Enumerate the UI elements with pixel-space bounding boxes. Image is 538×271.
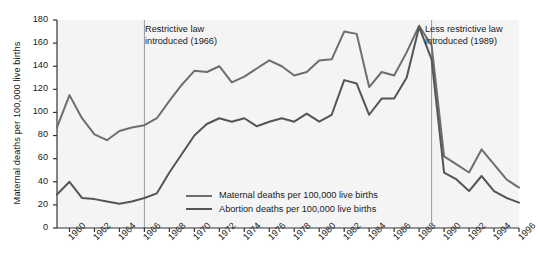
legend-item-abortion: Abortion deaths per 100,000 live births [186, 203, 378, 217]
restrictive-law-annotation: Restrictive lawintroduced (1966) [145, 24, 217, 47]
series-line-abortion-deaths [57, 27, 519, 204]
legend-swatch-abortion-icon [186, 208, 212, 210]
less-restrictive-law-annotation-line2: introduced (1989) [425, 36, 497, 46]
restrictive-law-annotation-line1: Restrictive law [145, 24, 204, 34]
series-line-maternal-deaths [57, 26, 519, 188]
legend-label-maternal: Maternal deaths per 100,000 live births [219, 189, 378, 203]
less-restrictive-law-annotation-line1: Less restrictive law [425, 24, 503, 34]
restrictive-law-annotation-line2: introduced (1966) [145, 36, 217, 46]
less-restrictive-law-annotation: Less restrictive lawintroduced (1989) [425, 24, 503, 47]
legend-swatch-maternal-icon [186, 195, 212, 197]
legend-item-maternal: Maternal deaths per 100,000 live births [186, 189, 378, 203]
legend-label-abortion: Abortion deaths per 100,000 live births [219, 203, 376, 217]
chart-legend: Maternal deaths per 100,000 live births … [186, 189, 378, 216]
